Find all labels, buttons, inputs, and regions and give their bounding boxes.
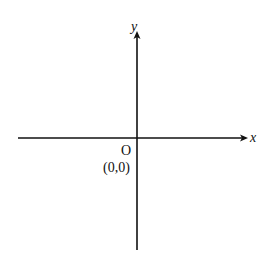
x-axis-label: x — [250, 131, 256, 145]
axes-graphic — [0, 0, 277, 264]
origin-coordinates: (0,0) — [103, 161, 130, 175]
coordinate-plane: y x O (0,0) — [0, 0, 277, 264]
origin-label: O — [121, 144, 131, 158]
y-axis-label: y — [131, 20, 137, 34]
